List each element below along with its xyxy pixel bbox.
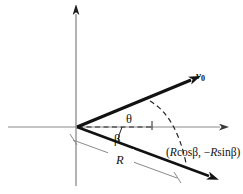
coordinate-cos-term: cosβ, −: [177, 146, 210, 158]
coordinate-close-paren: ): [237, 146, 241, 158]
range-label: R: [116, 154, 124, 167]
velocity-vector-v0: [77, 80, 191, 127]
vector-diagram: θ β R v0 (Rcosβ, −Rsinβ): [0, 0, 243, 194]
angle-beta-label: β: [114, 133, 120, 146]
coordinate-r-cos: R: [170, 146, 177, 158]
velocity-subscript: 0: [201, 74, 205, 83]
coordinate-sin-term: sinβ: [217, 146, 236, 158]
angle-theta-label: θ: [126, 113, 132, 126]
velocity-vector-label: v0: [196, 70, 205, 81]
endpoint-coordinate-label: (Rcosβ, −Rsinβ): [166, 147, 240, 159]
